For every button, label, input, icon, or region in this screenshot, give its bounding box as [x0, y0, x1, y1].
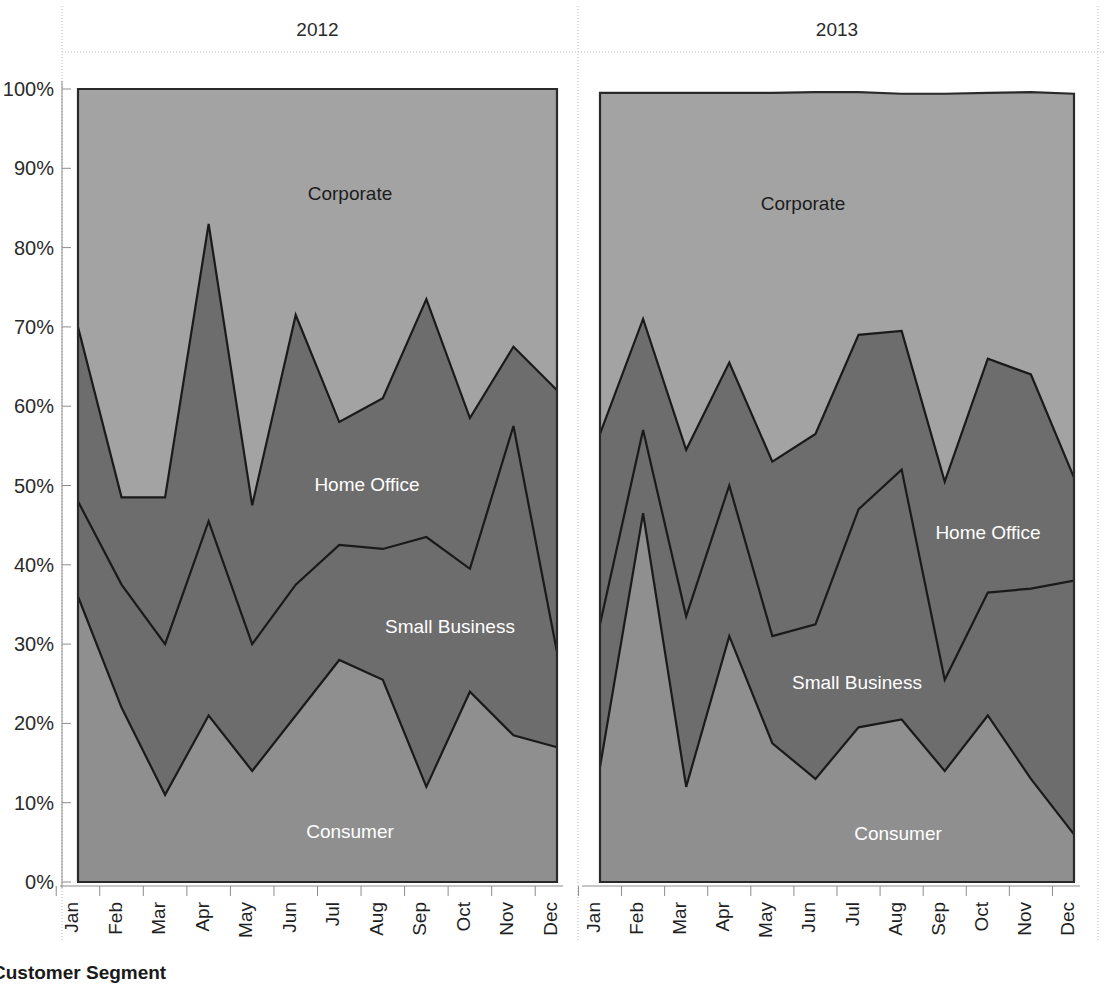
x-axis-label-oct-2013: Oct	[971, 901, 992, 931]
x-axis-label-aug-2012: Aug	[366, 902, 387, 936]
x-axis-label-nov-2013: Nov	[1014, 902, 1035, 936]
x-axis-label-jan-2013: Jan	[583, 902, 604, 933]
chart-canvas: 201220130%10%20%30%40%50%60%70%80%90%100…	[0, 0, 1104, 991]
x-axis-label-sep-2013: Sep	[928, 902, 949, 936]
stacked-area-chart: 201220130%10%20%30%40%50%60%70%80%90%100…	[0, 0, 1104, 991]
series-annotation-home-office-2012: Home Office	[314, 474, 419, 495]
x-axis-label-may-2012: May	[235, 902, 256, 938]
chart-footer-title: Customer Segment	[0, 962, 166, 984]
series-annotation-small-business-2013: Small Business	[792, 672, 922, 693]
series-annotation-consumer-2012: Consumer	[306, 821, 394, 842]
x-axis-label-jun-2013: Jun	[798, 902, 819, 933]
x-axis-label-oct-2012: Oct	[453, 901, 474, 931]
panel-header-2012: 2012	[296, 19, 338, 40]
x-axis-label-apr-2012: Apr	[192, 901, 213, 931]
y-axis-tick-50pct: 50%	[14, 475, 54, 497]
y-axis-tick-20pct: 20%	[14, 712, 54, 734]
y-axis-tick-40pct: 40%	[14, 554, 54, 576]
x-axis-label-jun-2012: Jun	[279, 902, 300, 933]
x-axis-label-jul-2012: Jul	[322, 902, 343, 926]
x-axis-label-mar-2013: Mar	[669, 901, 690, 934]
y-axis-tick-60pct: 60%	[14, 395, 54, 417]
x-axis-label-feb-2012: Feb	[105, 902, 126, 935]
panel-header-2013: 2013	[816, 19, 858, 40]
x-axis-label-jan-2012: Jan	[61, 902, 82, 933]
series-annotation-small-business-2012: Small Business	[385, 616, 515, 637]
y-axis-tick-100pct: 100%	[3, 78, 54, 100]
series-annotation-consumer-2013: Consumer	[854, 823, 942, 844]
x-axis-label-mar-2012: Mar	[148, 901, 169, 934]
series-annotation-home-office-2013: Home Office	[935, 522, 1040, 543]
series-annotation-corporate-2013: Corporate	[761, 193, 846, 214]
x-axis-label-nov-2012: Nov	[496, 902, 517, 936]
y-axis-tick-0pct: 0%	[25, 871, 54, 893]
x-axis-label-aug-2013: Aug	[885, 902, 906, 936]
series-annotation-corporate-2012: Corporate	[308, 183, 393, 204]
x-axis-label-dec-2013: Dec	[1057, 902, 1078, 936]
x-axis-label-may-2013: May	[755, 902, 776, 938]
y-axis-tick-80pct: 80%	[14, 237, 54, 259]
y-axis-tick-70pct: 70%	[14, 316, 54, 338]
x-axis-label-dec-2012: Dec	[540, 902, 561, 936]
x-axis-label-feb-2013: Feb	[626, 902, 647, 935]
x-axis-label-apr-2013: Apr	[712, 901, 733, 931]
y-axis-tick-90pct: 90%	[14, 157, 54, 179]
y-axis-tick-30pct: 30%	[14, 633, 54, 655]
x-axis-label-sep-2012: Sep	[409, 902, 430, 936]
x-axis-label-jul-2013: Jul	[842, 902, 863, 926]
y-axis-tick-10pct: 10%	[14, 792, 54, 814]
